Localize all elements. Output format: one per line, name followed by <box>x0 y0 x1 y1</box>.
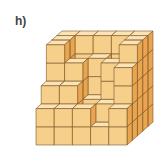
cube-structure-diagram <box>0 0 162 147</box>
